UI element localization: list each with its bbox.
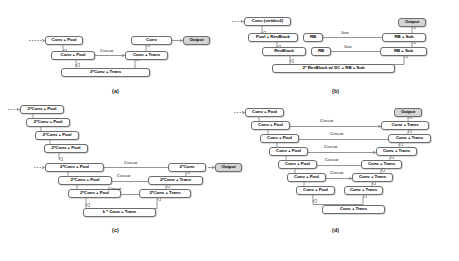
- edge-label-concat-d5: Concat: [330, 170, 343, 175]
- node-a6-output: Output: [183, 36, 210, 45]
- node-b8: RB + Sub: [380, 47, 427, 56]
- node-d11: Conv + Trans: [361, 160, 402, 169]
- node-b1: Conv (stride=2): [244, 17, 291, 26]
- node-d15-output: Output: [394, 108, 422, 117]
- node-c6: 2*Conv + Pool: [58, 176, 112, 185]
- node-d12: Conv + Trans: [376, 147, 417, 156]
- panel-label-a: (a): [112, 88, 119, 94]
- node-d3: Conv + Pool: [260, 134, 299, 143]
- node-c5: 2*Conv + Pool: [45, 163, 104, 172]
- node-a1: Conv + Pool: [45, 36, 83, 45]
- node-d2: Conv + Pool: [251, 121, 290, 130]
- figure-container: Conv + Pool Conv + Pool 2*Conv + Trans C…: [0, 0, 459, 261]
- edge-label-concat-a1: Concat: [100, 48, 113, 53]
- node-b9-output: Output: [398, 18, 426, 27]
- node-c2: 2*Conv + Pool: [26, 118, 70, 127]
- node-c9: 2*Conv + Trans: [139, 189, 191, 198]
- node-c10: 2*Conv + Trans: [148, 176, 203, 185]
- node-a3: 2*Conv + Trans: [61, 68, 150, 77]
- node-d13: Conv + Trans: [388, 134, 431, 143]
- node-c11: 2*Conv: [168, 163, 206, 172]
- edge-label-concat-d2: Concat: [330, 131, 343, 136]
- node-c8: k * Conv + Trans: [83, 208, 156, 217]
- node-c12-output: Output: [215, 163, 242, 172]
- edge-label-concat-c3: Concat: [108, 186, 121, 191]
- edge-label-concat-d4: Concat: [325, 157, 338, 162]
- node-d8: Conv + Trans: [322, 205, 385, 214]
- node-b2: Pool + ResBlock: [248, 33, 298, 42]
- node-d14: Conv + Trans: [381, 121, 429, 130]
- node-c3: 2*Conv + Pool: [35, 131, 79, 140]
- node-b4: 2* ResBlock w/ DC + RB + Sub: [272, 64, 395, 73]
- node-c1: 2*Conv + Pool: [20, 105, 64, 114]
- node-b7: RB + Sub: [382, 33, 426, 42]
- panel-label-c: (c): [112, 227, 119, 233]
- edge-label-concat-d1: Concat: [320, 118, 333, 123]
- edge-label-sum-b1: Sum: [341, 30, 349, 35]
- edge-label-concat-c1: Concat: [124, 160, 137, 165]
- node-d1: Conv + Pool: [245, 108, 284, 117]
- edge-label-concat-d3: Concat: [324, 144, 337, 149]
- node-b5: RB: [303, 33, 323, 42]
- node-d6: Conv + Pool: [287, 173, 326, 182]
- panel-label-d: (d): [332, 227, 339, 233]
- node-d10: Conv + Trans: [352, 173, 393, 182]
- node-d9: Conv + Trans: [344, 186, 383, 195]
- edge-label-concat-c2: Concat: [117, 173, 130, 178]
- node-d5: Conv + Pool: [278, 160, 317, 169]
- node-c4: 2*Conv + Pool: [44, 144, 88, 153]
- node-b3: ResBlock: [262, 47, 306, 56]
- node-a5: Conv: [131, 36, 172, 45]
- node-b6: RB: [311, 47, 331, 56]
- node-d7: Conv + Pool: [296, 186, 335, 195]
- edge-label-sum-b2: Sum: [344, 44, 352, 49]
- panel-label-b: (b): [332, 88, 339, 94]
- node-a2: Conv + Pool: [51, 51, 95, 60]
- node-d4: Conv + Pool: [269, 147, 308, 156]
- node-a4: Conv + Trans: [125, 51, 168, 60]
